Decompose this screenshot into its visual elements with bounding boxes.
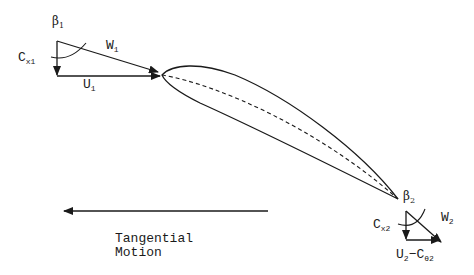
- outlet-relative-velocity-arrow: [406, 211, 441, 242]
- blade-outline: [162, 66, 398, 199]
- outlet-axial-label: Cx2: [373, 217, 391, 233]
- inlet-angle-arc: [51, 43, 86, 58]
- tangential-motion-label-line1: Tangential: [115, 231, 193, 246]
- outlet-blade-speed-label: U2−Cθ2: [396, 247, 434, 263]
- tangential-motion-label-line2: Motion: [115, 245, 162, 260]
- outlet-angle-arc: [398, 209, 425, 225]
- outlet-relative-label: W2: [441, 210, 454, 226]
- blade-camber-line: [162, 75, 398, 199]
- inlet-axial-label: Cx1: [18, 50, 36, 66]
- inlet-relative-label: W1: [106, 38, 119, 54]
- velocity-triangle-diagram: β1 Cx1 W1 U1 β2 Cx2 W2 U2−Cθ2 Tangential…: [0, 0, 474, 275]
- outlet-angle-label: β2: [403, 189, 415, 205]
- outlet-velocity-triangle: [398, 209, 441, 242]
- inlet-blade-speed-label: U1: [83, 77, 96, 93]
- inlet-angle-label: β1: [52, 14, 64, 30]
- blade-airfoil: [162, 66, 398, 199]
